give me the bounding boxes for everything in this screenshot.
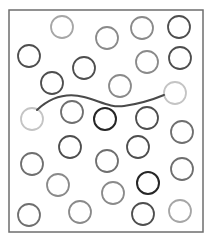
circles-diagram xyxy=(0,0,215,245)
circle-medium-dark-19 xyxy=(96,150,118,172)
diagram-frame xyxy=(9,10,203,232)
circle-medium-9 xyxy=(109,75,131,97)
circle-medium-dark-20 xyxy=(171,158,193,180)
circle-very-dark-22 xyxy=(137,172,159,194)
circle-dark-14 xyxy=(136,107,158,129)
circle-medium-2 xyxy=(131,17,153,39)
circle-very-light-10 xyxy=(164,82,186,104)
circle-dark-16 xyxy=(59,136,81,158)
circle-medium-dark-24 xyxy=(18,204,40,226)
circle-medium-21 xyxy=(47,174,69,196)
circle-dark-3 xyxy=(168,16,190,38)
circle-very-dark-13 xyxy=(94,108,116,130)
circle-dark-26 xyxy=(132,203,154,225)
circle-dark-8 xyxy=(41,72,63,94)
circle-medium-dark-15 xyxy=(171,121,193,143)
circle-medium-5 xyxy=(136,51,158,73)
circle-medium-25 xyxy=(69,201,91,223)
circle-light-0 xyxy=(51,16,73,38)
circle-medium-1 xyxy=(96,27,118,49)
circle-dark-6 xyxy=(169,47,191,69)
circle-medium-dark-12 xyxy=(61,101,83,123)
circle-medium-dark-18 xyxy=(21,153,43,175)
circles-group xyxy=(18,16,193,226)
circle-dark-17 xyxy=(127,136,149,158)
circle-dark-7 xyxy=(73,57,95,79)
circle-medium-23 xyxy=(102,182,124,204)
circle-dark-4 xyxy=(18,45,40,67)
circle-light-27 xyxy=(169,200,191,222)
circle-very-light-11 xyxy=(21,108,43,130)
diagram-canvas xyxy=(0,0,215,245)
